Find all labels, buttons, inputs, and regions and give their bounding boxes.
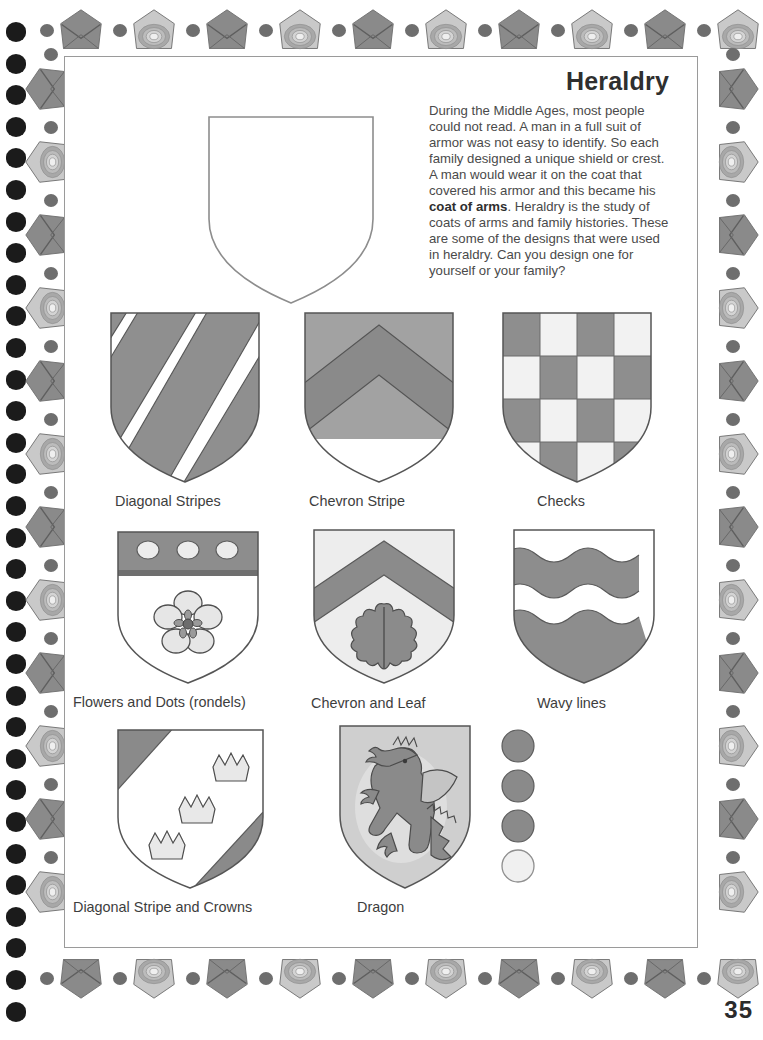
border-bead bbox=[44, 705, 58, 718]
blank-shield-outline-icon bbox=[201, 109, 381, 309]
intro-bold-term: coat of arms bbox=[429, 199, 507, 214]
gem-dark-icon bbox=[714, 212, 760, 258]
border-gem bbox=[714, 212, 760, 262]
binding-hole bbox=[6, 433, 26, 453]
intro-paragraph: During the Middle Ages, most people coul… bbox=[429, 103, 669, 279]
page-title: Heraldry bbox=[566, 67, 669, 96]
gem-dark-icon bbox=[350, 954, 396, 1000]
shield-cell-checks: Checks bbox=[497, 307, 657, 487]
gem-rosette-icon bbox=[714, 577, 760, 623]
rondel-4-icon bbox=[502, 850, 534, 882]
border-bead bbox=[40, 24, 54, 37]
binding-hole bbox=[6, 22, 26, 42]
border-bead bbox=[40, 972, 54, 985]
border-gem bbox=[714, 723, 760, 773]
border-gem bbox=[714, 431, 760, 481]
binding-hole bbox=[6, 54, 26, 74]
binding-hole bbox=[6, 1002, 26, 1022]
binding-hole bbox=[6, 370, 26, 390]
wavy-lines-shield-icon bbox=[509, 525, 659, 687]
binding-hole bbox=[6, 117, 26, 137]
gem-dark-icon bbox=[204, 8, 250, 54]
shield-cell-flowers-and-dots: Flowers and Dots (rondels) bbox=[113, 527, 263, 687]
border-gem bbox=[642, 954, 688, 1004]
chevron-stripe-shield-icon bbox=[299, 307, 459, 487]
gem-rosette-icon bbox=[714, 869, 760, 915]
border-bead bbox=[113, 24, 127, 37]
border-gem bbox=[714, 796, 760, 846]
border-gem bbox=[569, 8, 615, 58]
gem-rosette-icon bbox=[714, 285, 760, 331]
border-gem bbox=[496, 954, 542, 1004]
binding-hole bbox=[6, 749, 26, 769]
border-bead bbox=[44, 632, 58, 645]
binding-hole bbox=[6, 970, 26, 990]
gem-rosette-icon bbox=[714, 139, 760, 185]
border-bead bbox=[44, 267, 58, 280]
border-gem bbox=[204, 954, 250, 1004]
border-bead bbox=[726, 851, 740, 864]
border-bead bbox=[44, 48, 58, 61]
border-bead bbox=[113, 972, 127, 985]
gem-rosette-icon bbox=[714, 723, 760, 769]
binding-hole bbox=[6, 243, 26, 263]
binding-hole bbox=[6, 875, 26, 895]
border-bead bbox=[551, 24, 565, 37]
binding-hole bbox=[6, 622, 26, 642]
shield-caption-chevron-and-leaf: Chevron and Leaf bbox=[311, 695, 425, 711]
border-bead bbox=[726, 486, 740, 499]
border-bead bbox=[726, 632, 740, 645]
border-bead bbox=[405, 24, 419, 37]
border-gem bbox=[714, 577, 760, 627]
border-gem bbox=[131, 954, 177, 1004]
border-bead bbox=[726, 705, 740, 718]
checks-shield-icon bbox=[497, 307, 657, 487]
border-bead bbox=[259, 24, 273, 37]
binding-hole bbox=[6, 148, 26, 168]
rondel-samples-icon bbox=[493, 729, 543, 889]
shield-cell-diagonal-stripes: Diagonal Stripes bbox=[105, 307, 265, 487]
gem-rosette-icon bbox=[131, 954, 177, 1000]
border-bead bbox=[726, 559, 740, 572]
border-bead bbox=[44, 194, 58, 207]
gem-dark-icon bbox=[642, 8, 688, 54]
border-bead bbox=[405, 972, 419, 985]
border-bead bbox=[624, 972, 638, 985]
dragon-shield-icon bbox=[335, 721, 475, 893]
gem-rosette-icon bbox=[714, 431, 760, 477]
border-bead bbox=[726, 778, 740, 791]
binding-hole bbox=[6, 717, 26, 737]
border-gem bbox=[714, 66, 760, 116]
gem-dark-icon bbox=[714, 650, 760, 696]
border-bead bbox=[697, 24, 711, 37]
gem-rosette-icon bbox=[277, 954, 323, 1000]
gem-dark-icon bbox=[350, 8, 396, 54]
border-gem bbox=[58, 8, 104, 58]
border-gem bbox=[350, 8, 396, 58]
border-bead bbox=[44, 851, 58, 864]
gem-dark-icon bbox=[714, 504, 760, 550]
gem-dark-icon bbox=[204, 954, 250, 1000]
border-bead bbox=[186, 24, 200, 37]
border-bead bbox=[726, 121, 740, 134]
border-bead bbox=[478, 24, 492, 37]
border-gem bbox=[58, 954, 104, 1004]
shield-cell-chevron-stripe: Chevron Stripe bbox=[299, 307, 459, 487]
gem-dark-icon bbox=[58, 954, 104, 1000]
border-bead bbox=[44, 559, 58, 572]
border-gem bbox=[423, 954, 469, 1004]
gem-rosette-icon bbox=[131, 8, 177, 54]
binding-hole bbox=[6, 528, 26, 548]
binding-hole bbox=[6, 401, 26, 421]
border-bead bbox=[332, 972, 346, 985]
binding-hole bbox=[6, 591, 26, 611]
gem-rosette-icon bbox=[423, 954, 469, 1000]
shield-caption-flowers-and-dots: Flowers and Dots (rondels) bbox=[73, 694, 246, 710]
binding-hole bbox=[6, 496, 26, 516]
border-bead bbox=[697, 972, 711, 985]
border-bead bbox=[726, 267, 740, 280]
gem-dark-icon bbox=[496, 8, 542, 54]
binding-hole bbox=[6, 275, 26, 295]
binding-hole bbox=[6, 654, 26, 674]
border-bead bbox=[44, 340, 58, 353]
